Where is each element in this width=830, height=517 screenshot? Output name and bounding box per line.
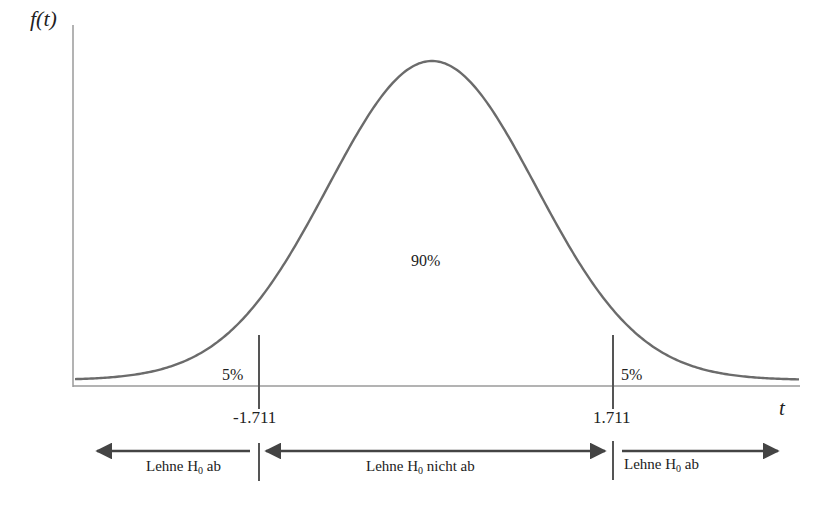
center-area-label: 90% [411,252,440,270]
x-axis-label: t [779,396,785,421]
left-tail-area-label: 5% [222,366,243,384]
center-region-label: Lehne H0 nicht ab [366,458,475,476]
left-region-text: Lehne H [146,458,198,474]
lower-critical-value: -1.711 [233,408,276,428]
y-axis-label: f(t) [30,6,57,32]
left-region-label: Lehne H0 ab [146,458,221,476]
center-region-text-end: nicht ab [423,458,475,474]
upper-critical-value: 1.711 [593,408,631,428]
center-region-text: Lehne H [366,458,418,474]
right-region-text: Lehne H [624,456,676,472]
left-region-text-end: ab [203,458,221,474]
right-region-label: Lehne H0 ab [624,456,699,474]
right-region-text-end: ab [681,456,699,472]
density-curve [75,61,799,379]
right-tail-area-label: 5% [621,366,642,384]
